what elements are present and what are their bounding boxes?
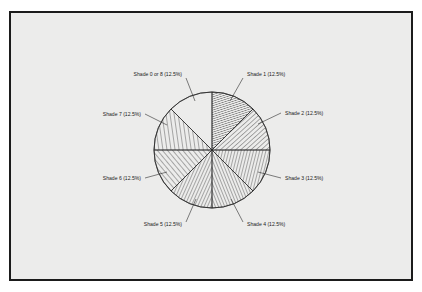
pie-label-shade-2: Shade 2 (12.5%) xyxy=(285,110,324,116)
pie-label-shade-5: Shade 5 (12.5%) xyxy=(144,221,183,227)
pie-label-shade-7: Shade 7 (12.5%) xyxy=(103,111,142,117)
pie-label-shade-4: Shade 4 (12.5%) xyxy=(247,221,286,227)
pie-label-shade-6: Shade 6 (12.5%) xyxy=(103,175,142,181)
pie-chart: Shade 0 or 8 (12.5%) Shade 1 (12.5%) Sha… xyxy=(0,0,422,292)
pie-slices xyxy=(154,92,270,208)
leader-line-shade-2 xyxy=(258,113,281,124)
pie-label-shade-1: Shade 1 (12.5%) xyxy=(247,71,286,77)
figure-canvas: Shade 0 or 8 (12.5%) Shade 1 (12.5%) Sha… xyxy=(0,0,422,292)
pie-label-shade-0-or-8: Shade 0 or 8 (12.5%) xyxy=(134,71,183,77)
pie-slice-shade-7[interactable] xyxy=(154,109,212,150)
pie-label-shade-3: Shade 3 (12.5%) xyxy=(285,175,324,181)
